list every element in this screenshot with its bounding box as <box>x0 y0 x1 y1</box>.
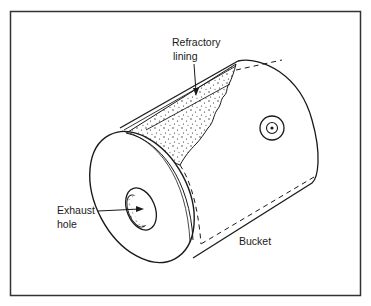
bucket-hidden-line-right <box>201 177 314 244</box>
label-exhaust-line2: hole <box>57 218 77 230</box>
label-refractory-line2: lining <box>173 50 198 62</box>
label-exhaust-line1: Exhaust <box>57 204 95 216</box>
label-bucket: Bucket <box>239 235 271 247</box>
refractory-leader-arrow <box>194 64 196 92</box>
bucket-diagram: Refractory lining Exhaust hole Bucket <box>0 0 371 306</box>
label-refractory-line1: Refractory <box>172 36 221 48</box>
side-port-center <box>270 126 273 129</box>
